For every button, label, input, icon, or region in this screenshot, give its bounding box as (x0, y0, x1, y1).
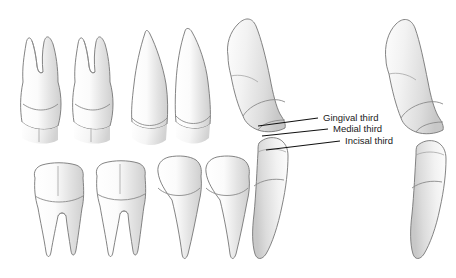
label-incisal-third: Incisal third (345, 135, 393, 146)
label-gingival-third: Gingival third (323, 112, 378, 123)
illustration-canvas: Gingival third Medial third Incisal thir… (0, 0, 456, 278)
label-medial-third: Medial third (333, 123, 382, 134)
